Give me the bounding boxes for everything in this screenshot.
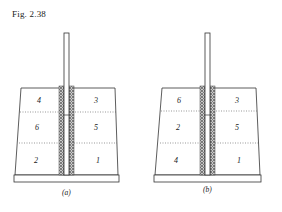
- seq-top-right: 3: [234, 96, 239, 105]
- vertical-plate: [64, 33, 69, 175]
- weld-bead-left: [59, 86, 64, 175]
- seq-top-left: 6: [177, 96, 181, 105]
- seq-bottom-right: 1: [96, 156, 100, 165]
- base-strip: [14, 175, 119, 182]
- seq-middle-left: 2: [176, 123, 180, 132]
- panel-caption: (b): [203, 185, 212, 194]
- seq-top-left: 4: [37, 96, 41, 105]
- seq-bottom-left: 2: [34, 156, 38, 165]
- panel-a: 4 3 6 5 2 1 (a): [14, 33, 119, 197]
- weld-sequence-diagram: 4 3 6 5 2 1 (a) 6 3 2 5 4 1 (b): [0, 0, 282, 212]
- base-strip: [154, 175, 261, 182]
- weld-bead-right: [69, 86, 74, 175]
- panel-caption: (a): [62, 188, 71, 197]
- seq-middle-right: 5: [235, 123, 239, 132]
- panel-b: 6 3 2 5 4 1 (b): [154, 33, 261, 194]
- seq-bottom-right: 1: [237, 156, 241, 165]
- seq-middle-right: 5: [94, 123, 98, 132]
- seq-bottom-left: 4: [174, 156, 178, 165]
- weld-bead-left: [200, 86, 205, 175]
- weld-bead-right: [210, 86, 215, 175]
- vertical-plate: [205, 33, 210, 175]
- seq-top-right: 3: [93, 96, 98, 105]
- seq-middle-left: 6: [35, 123, 39, 132]
